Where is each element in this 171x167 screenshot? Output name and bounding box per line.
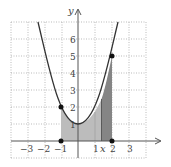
point-neg1-2 [59, 105, 64, 110]
y-tick-2: 2 [70, 103, 76, 113]
y-tick-6: 6 [70, 35, 76, 45]
y-tick-5: 5 [70, 52, 76, 62]
point-2-5 [110, 54, 115, 59]
y-tick-3: 3 [70, 86, 76, 96]
y-tick-4: 4 [70, 69, 76, 79]
x-tick-neg1: −1 [54, 144, 67, 154]
point-2-0 [110, 139, 115, 144]
x-tick-neg2: −2 [37, 144, 50, 154]
x-tick-2: 2 [110, 144, 116, 154]
point-neg1-0 [59, 139, 64, 144]
x-tick-neg3: −3 [20, 144, 34, 154]
x-tick-3: 3 [127, 144, 133, 154]
x-tick-1: 1 [93, 144, 99, 154]
y-tick-1: 1 [70, 120, 76, 130]
x-strip-label: x [100, 143, 106, 154]
area-under-curve-diagram: y −3 −2 −1 1 x 2 3 1 2 3 4 5 6 [0, 0, 171, 167]
y-axis-label: y [67, 5, 74, 16]
